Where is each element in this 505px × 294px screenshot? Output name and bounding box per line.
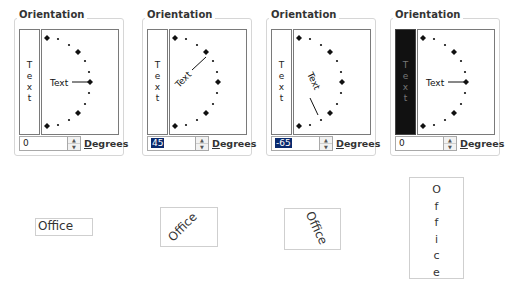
vertical-letter: t [404, 93, 408, 104]
panel-title: Orientation [145, 9, 215, 20]
dial-text-label: Text [305, 70, 322, 92]
spin-down-icon[interactable]: ▼ [320, 143, 332, 150]
orientation-dial[interactable]: Text [41, 29, 119, 135]
sample-text: Office [165, 210, 200, 245]
sample-letter: O [432, 182, 441, 199]
degrees-spinner[interactable]: ▲ ▼ [196, 136, 209, 151]
vertical-letter: T [155, 60, 161, 71]
panel-title: Orientation [269, 9, 339, 20]
degrees-row: 0 ▲ ▼ Degrees [395, 136, 504, 151]
dial-graphic: Text [418, 30, 494, 134]
orientation-dial[interactable]: Text [417, 29, 495, 135]
vertical-letter: x [403, 82, 408, 93]
degrees-label: Degrees [336, 138, 380, 149]
sample-letter: e [433, 265, 440, 282]
sample-cell-horizontal: Office [35, 218, 93, 236]
vertical-text-button[interactable]: T e x t [271, 29, 292, 135]
degrees-label: Degrees [84, 138, 128, 149]
dial-graphic: Text [42, 30, 118, 134]
panel-title: Orientation [393, 9, 463, 20]
vertical-text-button[interactable]: T e x t [147, 29, 168, 135]
degrees-label: Degrees [460, 138, 504, 149]
sample-text: Office [38, 219, 73, 233]
vertical-letter: x [27, 82, 32, 93]
dial-text-label: Text [425, 78, 445, 88]
spin-down-icon[interactable]: ▼ [68, 143, 80, 150]
degrees-input[interactable]: 0 [395, 136, 444, 151]
orientation-dial[interactable]: Text [169, 29, 247, 135]
degrees-row: 0 ▲ ▼ Degrees [19, 136, 128, 151]
dial-text-label: Text [49, 78, 69, 88]
degrees-input[interactable]: 45 [147, 136, 196, 151]
degrees-input[interactable]: -65 [271, 136, 320, 151]
vertical-letter: e [279, 71, 285, 82]
orientation-dial[interactable]: Text [293, 29, 371, 135]
vertical-letter: T [279, 60, 285, 71]
vertical-letter: t [280, 93, 284, 104]
sample-letter: f [435, 199, 439, 216]
sample-letter: f [435, 215, 439, 232]
degrees-input[interactable]: 0 [19, 136, 68, 151]
vertical-letter: t [156, 93, 160, 104]
sample-cell-minus65deg: Office [284, 208, 341, 250]
orientation-panel-vertical: Orientation T e x t Text 0 ▲ ▼ Degrees [390, 18, 500, 156]
vertical-letter: x [279, 82, 284, 93]
orientation-panel-minus65deg: Orientation T e x t Text -65 ▲ ▼ Degrees [266, 18, 376, 156]
vertical-letter: e [403, 71, 409, 82]
spin-down-icon[interactable]: ▼ [444, 143, 456, 150]
sample-cell-vertical: O f f i c e [409, 177, 464, 279]
vertical-text-button[interactable]: T e x t [19, 29, 40, 135]
degrees-row: 45 ▲ ▼ Degrees [147, 136, 256, 151]
degrees-row: -65 ▲ ▼ Degrees [271, 136, 380, 151]
orientation-panel-45deg: Orientation T e x t Text 45 ▲ ▼ Degrees [142, 18, 252, 156]
vertical-letter: e [155, 71, 161, 82]
sample-letter: c [433, 248, 439, 265]
degrees-spinner[interactable]: ▲ ▼ [444, 136, 457, 151]
dial-graphic: Text [294, 30, 370, 134]
vertical-letter: x [155, 82, 160, 93]
degrees-spinner[interactable]: ▲ ▼ [320, 136, 333, 151]
orientation-panel-0deg: Orientation T e x t Text 0 ▲ ▼ Degrees [14, 18, 124, 156]
sample-text: Office [303, 209, 330, 247]
dial-text-label: Text [173, 69, 194, 90]
vertical-text-button[interactable]: T e x t [395, 29, 416, 135]
sample-letter: i [435, 232, 438, 249]
spin-down-icon[interactable]: ▼ [196, 143, 208, 150]
sample-cell-45deg: Office [160, 207, 218, 247]
vertical-letter: T [27, 60, 33, 71]
degrees-label: Degrees [212, 138, 256, 149]
degrees-spinner[interactable]: ▲ ▼ [68, 136, 81, 151]
vertical-letter: T [403, 60, 409, 71]
vertical-letter: e [27, 71, 33, 82]
vertical-letter: t [28, 93, 32, 104]
panel-title: Orientation [17, 9, 87, 20]
dial-graphic: Text [170, 30, 246, 134]
